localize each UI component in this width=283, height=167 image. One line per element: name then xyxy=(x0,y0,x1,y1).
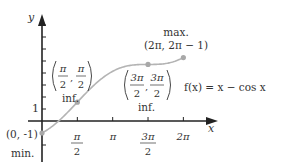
svg-text:,: , xyxy=(70,72,73,83)
x-tick-label-pi-over-2-num: π xyxy=(73,131,81,142)
point-max xyxy=(181,55,186,60)
x-tick-label-pi: π xyxy=(109,131,117,142)
point-inflection-2 xyxy=(145,62,150,67)
point-label-inflection-1-note: inf. xyxy=(62,92,79,104)
x-axis-label: x xyxy=(208,122,215,135)
point-label-min-note: min. xyxy=(11,147,34,159)
x-tick-label-3pi-over-2-num: 3π xyxy=(142,131,155,142)
y-tick-label-1: 1 xyxy=(32,102,39,115)
inf1-y-num: π xyxy=(77,63,85,74)
x-tick-label-pi-over-2: π 2 xyxy=(71,131,83,157)
point-label-max-note: max. xyxy=(163,26,188,38)
function-label: f(x) = x − cos x xyxy=(184,81,266,93)
point-label-inflection-1: π 2 , π 2 xyxy=(53,61,92,91)
inf1-x-den: 2 xyxy=(60,79,66,90)
svg-text:,: , xyxy=(145,81,148,92)
x-tick-label-pi-over-2-den: 2 xyxy=(74,146,80,157)
inf1-y-den: 2 xyxy=(78,79,84,90)
inf2-x-den: 2 xyxy=(134,88,140,99)
point-label-max-coord: (2π, 2π − 1) xyxy=(144,39,208,51)
y-axis-label: y xyxy=(27,11,35,24)
inf2-y-num: 3π xyxy=(151,72,164,83)
point-min xyxy=(39,130,44,135)
x-tick-label-3pi-over-2-den: 2 xyxy=(145,146,151,157)
inf1-x-num: π xyxy=(59,63,67,74)
inf2-y-den: 2 xyxy=(154,88,160,99)
point-label-inflection-2-note: inf. xyxy=(138,101,155,113)
point-label-inflection-2: 3π 2 , 3π 2 xyxy=(125,70,171,100)
chart-canvas: y x 1 π 2 π 3π 2 2π (0, -1) min. π 2 , π… xyxy=(0,0,283,167)
y-axis-arrow xyxy=(38,14,46,26)
point-label-min-coord: (0, -1) xyxy=(6,128,38,140)
inf2-x-num: 3π xyxy=(131,72,144,83)
x-tick-label-2pi: 2π xyxy=(176,131,190,142)
x-tick-label-3pi-over-2: 3π 2 xyxy=(140,131,156,157)
